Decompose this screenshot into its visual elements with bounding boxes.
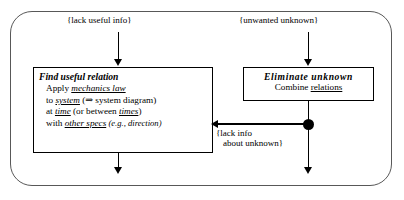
guard-label-lack-info-about-unknown: {lack info about unknown} [216, 128, 283, 149]
step-suffix: (⇒ system diagram) [80, 95, 156, 105]
step-suffix: ) [138, 106, 141, 116]
activity-body-eliminate-unknown: Combine relations [244, 82, 373, 94]
guard-label-line2: about unknown} [216, 138, 283, 148]
step-emphasis: other specs [65, 118, 107, 128]
connector-in-eliminate-line [308, 32, 309, 59]
step-prefix: Apply [46, 83, 71, 93]
guard-label-lack-useful-info: {lack useful info} [67, 15, 132, 26]
step-suffix: (e.g., direction) [106, 118, 161, 128]
connector-feedback-arrowhead [211, 120, 218, 128]
connector-in-find-arrowhead [114, 59, 122, 66]
guard-label-unwanted-unknown: {unwanted unknown} [239, 15, 318, 26]
step-prefix: with [46, 118, 65, 128]
step-emphasis: time [55, 106, 71, 116]
step-apply-mechanics-law: Apply mechanics law [46, 83, 212, 95]
activity-body-find-useful-relation: Apply mechanics law to system (⇒ system … [34, 82, 212, 129]
step-prefix: Combine [275, 82, 311, 92]
activity-title-eliminate-unknown: Eliminate unknown [244, 68, 373, 82]
connector-out-find-line [118, 153, 119, 168]
activity-box-eliminate-unknown[interactable]: Eliminate unknown Combine relations [243, 67, 374, 101]
activity-box-find-useful-relation[interactable]: Find useful relation Apply mechanics law… [33, 67, 213, 153]
step-prefix: at [46, 106, 55, 116]
connector-in-find-line [118, 32, 119, 59]
step-at-time: at time (or between times) [46, 106, 212, 118]
guard-label-line1: {lack info [216, 128, 252, 138]
step-emphasis: system [55, 95, 80, 105]
connector-in-eliminate-arrowhead [304, 59, 312, 66]
step-to-system: to system (⇒ system diagram) [46, 95, 212, 107]
junction-point-decision [303, 119, 314, 130]
connector-out-eliminate-arrowhead [304, 167, 312, 174]
step-with-other-specs: with other specs (e.g., direction) [46, 118, 212, 130]
connector-eliminate-out-line [308, 101, 309, 168]
diagram-canvas: {lack useful info} {unwanted unknown} {l… [0, 0, 404, 200]
step-mid: (or between [71, 106, 119, 116]
connector-feedback-line [218, 123, 309, 124]
step-emphasis: mechanics law [71, 83, 125, 93]
step-combine-relations: Combine relations [244, 82, 373, 94]
step-emphasis: relations [311, 82, 343, 92]
step-emphasis-2: times [119, 106, 138, 116]
connector-out-find-arrowhead [114, 167, 122, 174]
activity-title-find-useful-relation: Find useful relation [34, 68, 212, 82]
